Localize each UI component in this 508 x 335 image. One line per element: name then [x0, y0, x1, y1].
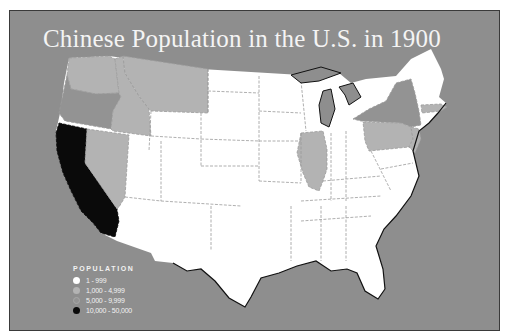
- state-massachusetts: [421, 104, 447, 113]
- legend-label: 1,000 - 4,999: [86, 287, 125, 294]
- legend: POPULATION 1 - 999 1,000 - 4,999 5,000 -…: [73, 265, 134, 315]
- circle-swatch-icon: [73, 287, 80, 294]
- map-title: Chinese Population in the U.S. in 1900: [43, 25, 441, 53]
- legend-item-5000-9999: 5,000 - 9,999: [73, 295, 134, 305]
- legend-label: 10,000 - 50,000: [86, 307, 132, 314]
- legend-item-1-999: 1 - 999: [73, 275, 134, 285]
- state-washington: [67, 56, 119, 94]
- legend-label: 1 - 999: [86, 277, 106, 284]
- map-frame: Chinese Population in the U.S. in 1900 P…: [9, 10, 500, 331]
- circle-swatch-icon: [73, 307, 80, 314]
- state-pennsylvania: [363, 122, 413, 151]
- legend-title: POPULATION: [73, 265, 134, 272]
- circle-swatch-icon: [73, 277, 80, 284]
- legend-label: 5,000 - 9,999: [86, 297, 125, 304]
- legend-item-1000-4999: 1,000 - 4,999: [73, 285, 134, 295]
- legend-item-10000-50000: 10,000 - 50,000: [73, 305, 134, 315]
- circle-swatch-icon: [73, 297, 80, 304]
